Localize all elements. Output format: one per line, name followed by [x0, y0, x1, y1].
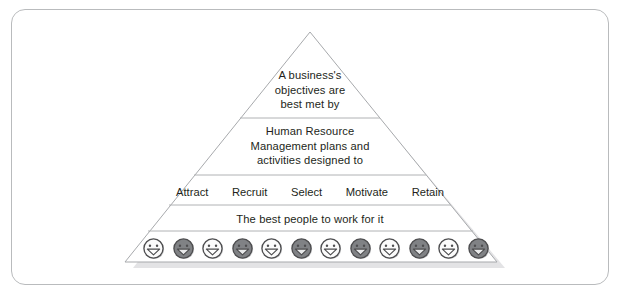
hr-activity-recruit: Recruit [232, 186, 267, 198]
pyramid-diagram: A business's objectives are best met by … [0, 0, 622, 296]
tier-hr-activities-row: Attract Recruit Select Motivate Retain [176, 186, 444, 198]
hr-activity-select: Select [291, 186, 322, 198]
tier-people-icons-row [142, 236, 490, 260]
smiley-face-icon [260, 237, 283, 260]
hr-activity-attract: Attract [176, 186, 208, 198]
smiley-face-icon [349, 237, 372, 260]
smiley-face-icon [290, 237, 313, 260]
smiley-face-icon [378, 237, 401, 260]
smiley-face-icon [231, 237, 254, 260]
smiley-face-icon [467, 237, 490, 260]
smiley-face-icon [142, 237, 165, 260]
smiley-face-icon [437, 237, 460, 260]
smiley-face-icon [201, 237, 224, 260]
smiley-face-icon [319, 237, 342, 260]
smiley-face-icon [172, 237, 195, 260]
tier-people-label: The best people to work for it [176, 212, 444, 227]
hr-activity-retain: Retain [412, 186, 444, 198]
tier-objectives-label: A business's objectives are best met by [240, 68, 380, 112]
tier-hrm-plans-label: Human Resource Management plans and acti… [212, 124, 408, 168]
smiley-face-icon [408, 237, 431, 260]
hr-activity-motivate: Motivate [346, 186, 388, 198]
